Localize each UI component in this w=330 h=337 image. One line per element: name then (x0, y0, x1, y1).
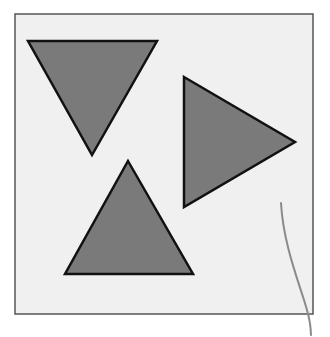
triangles-drawing (0, 0, 330, 337)
